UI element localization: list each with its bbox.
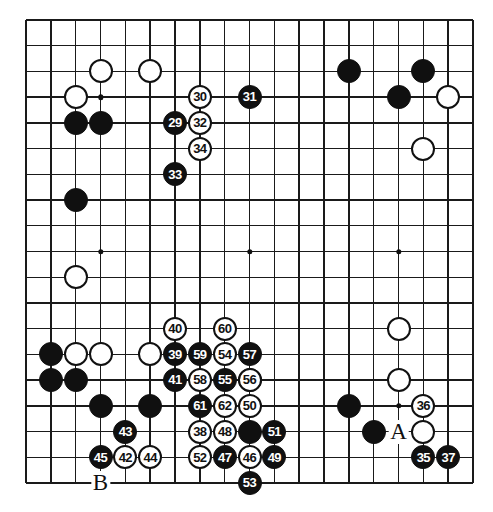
move-number: 55	[218, 373, 231, 386]
black-stone[interactable]	[64, 368, 88, 392]
white-stone[interactable]	[64, 265, 88, 289]
black-stone[interactable]	[411, 59, 435, 83]
white-stone[interactable]	[138, 342, 162, 366]
move-number: 42	[119, 451, 132, 464]
black-stone-35[interactable]: 35	[411, 445, 435, 469]
grid-line-horizontal	[26, 302, 473, 303]
move-number: 44	[144, 451, 157, 464]
black-stone[interactable]	[387, 85, 411, 109]
move-number: 30	[193, 90, 206, 103]
white-stone-38[interactable]: 38	[188, 420, 212, 444]
grid-line-horizontal	[26, 277, 473, 278]
grid-line-vertical	[298, 20, 299, 483]
black-stone-31[interactable]: 31	[238, 85, 262, 109]
move-number: 58	[193, 373, 206, 386]
black-stone[interactable]	[39, 368, 63, 392]
black-stone-29[interactable]: 29	[163, 111, 187, 135]
black-stone-59[interactable]: 59	[188, 342, 212, 366]
move-number: 43	[119, 425, 132, 438]
star-point	[98, 249, 103, 254]
white-stone-40[interactable]: 40	[163, 317, 187, 341]
move-number: 39	[168, 348, 181, 361]
black-stone[interactable]	[64, 111, 88, 135]
black-stone-39[interactable]: 39	[163, 342, 187, 366]
star-point	[396, 403, 401, 408]
grid-line-vertical	[323, 20, 324, 483]
white-stone-44[interactable]: 44	[138, 445, 162, 469]
move-number: 56	[243, 373, 256, 386]
move-number: 38	[193, 425, 206, 438]
black-stone[interactable]	[337, 394, 361, 418]
move-number: 60	[218, 322, 231, 335]
white-stone[interactable]	[89, 59, 113, 83]
black-stone-45[interactable]: 45	[89, 445, 113, 469]
white-stone-52[interactable]: 52	[188, 445, 212, 469]
move-number: 29	[168, 116, 181, 129]
star-point	[98, 94, 103, 99]
black-stone-41[interactable]: 41	[163, 368, 187, 392]
white-stone[interactable]	[138, 59, 162, 83]
white-stone-32[interactable]: 32	[188, 111, 212, 135]
white-stone-48[interactable]: 48	[213, 420, 237, 444]
move-number: 61	[193, 399, 206, 412]
black-stone[interactable]	[89, 394, 113, 418]
move-number: 59	[193, 348, 206, 361]
white-stone[interactable]	[436, 85, 460, 109]
black-stone-61[interactable]: 61	[188, 394, 212, 418]
white-stone-50[interactable]: 50	[238, 394, 262, 418]
black-stone[interactable]	[39, 342, 63, 366]
white-stone-54[interactable]: 54	[213, 342, 237, 366]
black-stone[interactable]	[362, 420, 386, 444]
white-stone-34[interactable]: 34	[188, 137, 212, 161]
black-stone-43[interactable]: 43	[113, 420, 137, 444]
move-number: 36	[417, 399, 430, 412]
grid-line-vertical	[373, 20, 374, 483]
white-stone-58[interactable]: 58	[188, 368, 212, 392]
white-stone-62[interactable]: 62	[213, 394, 237, 418]
move-number: 48	[218, 425, 231, 438]
white-stone[interactable]	[387, 317, 411, 341]
white-stone[interactable]	[89, 342, 113, 366]
black-stone-33[interactable]: 33	[163, 162, 187, 186]
go-diagram: 2930313233343536373839404142434445464748…	[0, 0, 493, 512]
white-stone-36[interactable]: 36	[411, 394, 435, 418]
black-stone[interactable]	[238, 420, 262, 444]
white-stone-60[interactable]: 60	[213, 317, 237, 341]
white-stone-42[interactable]: 42	[113, 445, 137, 469]
black-stone-57[interactable]: 57	[238, 342, 262, 366]
move-number: 45	[94, 451, 107, 464]
move-number: 52	[193, 451, 206, 464]
white-stone[interactable]	[411, 420, 435, 444]
white-stone-30[interactable]: 30	[188, 85, 212, 109]
black-stone-49[interactable]: 49	[262, 445, 286, 469]
move-number: 57	[243, 348, 256, 361]
point-label-a: A	[388, 420, 409, 444]
goban-grid[interactable]: 2930313233343536373839404142434445464748…	[26, 20, 473, 483]
black-stone-53[interactable]: 53	[238, 471, 262, 495]
move-number: 53	[243, 476, 256, 489]
white-stone-46[interactable]: 46	[238, 445, 262, 469]
move-number: 49	[268, 451, 281, 464]
move-number: 35	[417, 451, 430, 464]
white-stone[interactable]	[64, 342, 88, 366]
move-number: 31	[243, 90, 256, 103]
black-stone[interactable]	[89, 111, 113, 135]
black-stone[interactable]	[138, 394, 162, 418]
move-number: 34	[193, 142, 206, 155]
black-stone-55[interactable]: 55	[213, 368, 237, 392]
white-stone-56[interactable]: 56	[238, 368, 262, 392]
black-stone-37[interactable]: 37	[436, 445, 460, 469]
move-number: 40	[168, 322, 181, 335]
grid-line-vertical	[274, 20, 275, 483]
move-number: 33	[168, 168, 181, 181]
black-stone[interactable]	[64, 188, 88, 212]
star-point	[247, 249, 252, 254]
white-stone[interactable]	[411, 137, 435, 161]
move-number: 37	[442, 451, 455, 464]
black-stone-47[interactable]: 47	[213, 445, 237, 469]
white-stone[interactable]	[387, 368, 411, 392]
black-stone[interactable]	[337, 59, 361, 83]
move-number: 62	[218, 399, 231, 412]
white-stone[interactable]	[64, 85, 88, 109]
black-stone-51[interactable]: 51	[262, 420, 286, 444]
